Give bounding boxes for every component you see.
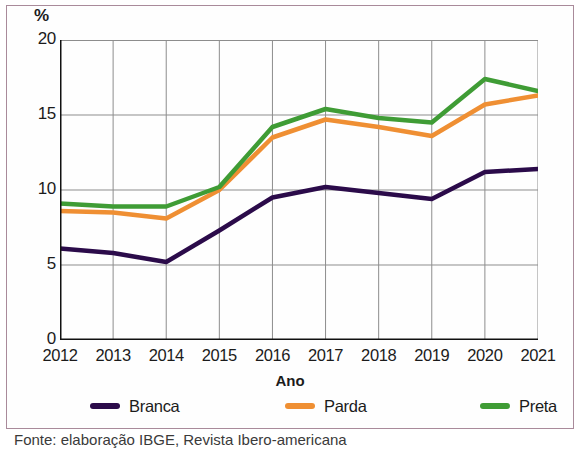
legend-swatch-icon [480, 403, 510, 409]
legend-item-branca[interactable]: Branca [90, 397, 179, 415]
y-tick-label: 5 [22, 254, 56, 274]
y-tick-label: 10 [22, 179, 56, 199]
legend-item-preta[interactable]: Preta [480, 397, 557, 415]
x-tick-label: 2013 [96, 346, 131, 365]
legend-label: Preta [519, 397, 557, 415]
source-caption-cropped: Fonte: elaboração IBGE, Revista Ibero-am… [6, 434, 574, 449]
legend-swatch-icon [285, 403, 315, 409]
x-tick-label: 2020 [467, 346, 502, 365]
legend-label: Branca [129, 397, 179, 415]
x-tick-label: 2021 [520, 346, 555, 365]
x-tick-label: 2018 [361, 346, 396, 365]
x-tick-label: 2014 [149, 346, 184, 365]
y-tick-label: 20 [22, 29, 56, 49]
x-tick-label: 2012 [42, 346, 77, 365]
chart-legend: BrancaPardaPreta [60, 397, 540, 421]
legend-swatch-icon [90, 403, 120, 409]
x-axis-title: Ano [0, 372, 580, 389]
legend-item-parda[interactable]: Parda [285, 397, 367, 415]
figure-page: % 05101520 20122013201420152016201720182… [0, 0, 580, 449]
x-tick-label: 2019 [414, 346, 449, 365]
x-tick-label: 2017 [308, 346, 343, 365]
plot-area [60, 40, 538, 340]
legend-label: Parda [324, 397, 367, 415]
line-chart-svg [60, 40, 538, 340]
x-axis-tick-labels: 2012201320142015201620172018201920202021 [60, 346, 538, 372]
series-line-preta [60, 79, 538, 207]
y-tick-label: 15 [22, 104, 56, 124]
source-caption-text: Fonte: elaboração IBGE, Revista Ibero-am… [14, 434, 347, 448]
data-series-group [60, 79, 538, 262]
series-line-parda [60, 96, 538, 219]
x-tick-label: 2016 [255, 346, 290, 365]
x-tick-label: 2015 [202, 346, 237, 365]
